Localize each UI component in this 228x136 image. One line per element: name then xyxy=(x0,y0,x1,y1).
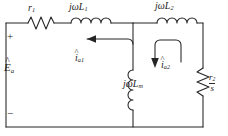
label-current-ia2: ^ia2 xyxy=(161,60,170,71)
label-jwL2-sub: 2 xyxy=(170,4,173,11)
label-ia1-base: ^i xyxy=(75,52,78,63)
label-jwLm-base: jωL xyxy=(123,78,138,89)
current-arrow-ia2-head xyxy=(151,58,159,68)
label-jwL1-base: jωL xyxy=(69,1,84,12)
label-current-ia1: ^ia1 xyxy=(75,53,84,64)
hat-accent-icon: ^ xyxy=(5,57,9,66)
label-Ea-base: ^E xyxy=(4,61,11,73)
label-Ea-sub: a xyxy=(11,67,14,74)
label-r2-sub: 2 xyxy=(213,76,216,82)
current-arrow-ia1-head xyxy=(87,35,96,43)
terminal-positive-sign: + xyxy=(7,31,13,42)
fraction-r2-over-s: r2 s xyxy=(209,73,215,93)
current-arrow-ia2-path xyxy=(155,40,181,62)
hat-accent-icon: ^ xyxy=(160,55,164,64)
label-ia1-sub: a1 xyxy=(78,56,84,63)
label-ia2-base: ^i xyxy=(161,59,164,70)
label-r1-sub: 1 xyxy=(32,6,35,13)
schematic-canvas xyxy=(0,0,228,136)
resistor-r1-symbol xyxy=(28,17,54,29)
label-resistor-r1: r1 xyxy=(28,3,35,14)
circuit-diagram: r1 jωL1 jωL2 jωLm r2 s ^Ea ^ia1 ^ia2 + − xyxy=(0,0,228,136)
fraction-denominator: s xyxy=(209,83,215,93)
inductor-jwL1-symbol xyxy=(71,18,111,23)
inductor-jwLm-symbol xyxy=(128,70,133,110)
resistor-r2-over-s-symbol xyxy=(197,68,209,96)
label-resistor-r2-over-s: r2 s xyxy=(209,73,215,93)
fraction-numerator: r2 xyxy=(209,73,215,83)
label-jwL2-base: jωL xyxy=(155,0,170,11)
label-jwLm-sub: m xyxy=(138,82,142,89)
inductor-jwL2-symbol xyxy=(157,18,197,23)
label-inductor-jwL1: jωL1 xyxy=(69,2,88,13)
hat-accent-icon: ^ xyxy=(74,48,78,57)
label-jwL1-sub: 1 xyxy=(84,5,87,12)
label-inductor-jwL2: jωL2 xyxy=(155,1,174,12)
label-inductor-jwLm: jωLm xyxy=(123,79,143,90)
terminal-negative-sign: − xyxy=(7,108,13,119)
label-source-voltage-Ea: ^Ea xyxy=(4,62,14,74)
label-ia2-sub: a2 xyxy=(164,63,170,70)
